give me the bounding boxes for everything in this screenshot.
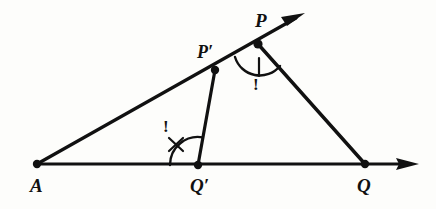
point-dot-a	[33, 160, 41, 168]
point-dot-q	[361, 160, 369, 168]
point-dot-pprime	[211, 66, 219, 74]
point-label-q: Q	[357, 176, 371, 195]
segment-p-q	[258, 44, 365, 164]
geometry-figure: A Q′ Q P′ P ! !	[0, 0, 436, 209]
angle-annotation-p: !	[253, 76, 259, 93]
point-label-a: A	[30, 176, 43, 195]
point-label-p: P	[255, 11, 267, 30]
ray-a-q-arrowhead	[396, 158, 419, 170]
segment-pprime-qprime	[198, 70, 215, 165]
point-label-pprime: P′	[197, 43, 213, 61]
angle-annotation-qprime: !	[163, 118, 169, 135]
point-label-qprime: Q′	[190, 176, 209, 195]
point-dot-p	[253, 39, 262, 48]
point-dot-qprime	[194, 161, 202, 169]
